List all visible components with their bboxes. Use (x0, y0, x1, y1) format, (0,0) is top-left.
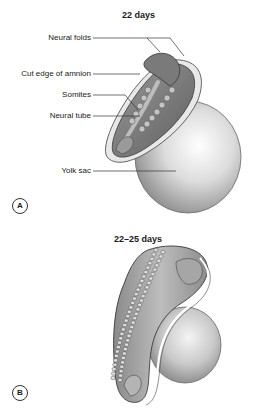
somite-bead (138, 284, 142, 287)
somite-bead (118, 378, 122, 381)
somite-bead (136, 308, 140, 311)
somite-bead (119, 374, 123, 377)
somite-bead (125, 343, 129, 346)
somite-bead (121, 361, 125, 364)
somite-bead (153, 268, 157, 271)
somite-bead (134, 293, 138, 296)
panel-b-title: 22–25 days (114, 234, 162, 244)
embryo-illustration (0, 0, 278, 409)
panel-b-marker: B (12, 385, 28, 401)
panel-a-title: 22 days (122, 10, 155, 20)
somite-bead (130, 325, 134, 328)
somite-bead (149, 277, 153, 280)
somite-bead (134, 312, 138, 315)
somite-bead (127, 310, 131, 313)
somite-bead (120, 332, 124, 335)
panel-b-figure (111, 246, 221, 405)
somite-bead (115, 350, 119, 353)
panel-a-marker: A (12, 198, 28, 214)
somite-bead (140, 279, 144, 282)
somite-bead (119, 370, 123, 373)
somite-bead (126, 315, 130, 318)
somite-bead (114, 359, 118, 362)
somite-bead (111, 376, 115, 379)
somite-bead (146, 266, 150, 269)
somite-bead (112, 368, 116, 371)
somite-bead (157, 259, 161, 262)
somite-bead (122, 352, 126, 355)
somite-bead (131, 301, 135, 304)
somite-bead (150, 257, 154, 260)
somite-bead (155, 264, 159, 267)
somite-bead (143, 290, 147, 293)
somite-bead (128, 330, 132, 333)
somite-bead (138, 303, 142, 306)
somite-bead (131, 321, 135, 324)
somite-bead (148, 262, 152, 265)
somite-bead (113, 363, 117, 366)
somite-bead (119, 337, 123, 340)
somite-bead (145, 286, 149, 289)
somite-bead (118, 341, 122, 344)
label-neural-folds: Neural folds (48, 33, 91, 42)
label-somites: Somites (62, 90, 91, 99)
somite-bead (126, 339, 130, 342)
somite-bead (152, 253, 156, 256)
somite-bead (151, 272, 155, 275)
somite-bead (147, 281, 151, 284)
somite-bead (161, 250, 165, 253)
panel-a-figure (105, 53, 241, 213)
label-yolk-sac: Yolk sac (62, 166, 92, 175)
somite-bead (123, 348, 127, 351)
label-cut-edge-of-amnion: Cut edge of amnion (21, 69, 91, 78)
somite-bead (127, 334, 131, 337)
somite-bead (121, 356, 125, 359)
somite-bead (136, 288, 140, 291)
somite-bead (132, 297, 136, 300)
somite-bead (144, 270, 148, 273)
somite-bead (139, 299, 143, 302)
somite-bead (114, 354, 118, 357)
somite-bead (120, 365, 124, 368)
somite-bead (141, 295, 145, 298)
label-neural-tube: Neural tube (50, 111, 91, 120)
somite-bead (133, 317, 137, 320)
somite-bead (129, 306, 133, 309)
somite-bead (123, 323, 127, 326)
somite-bead (124, 319, 128, 322)
somite-bead (116, 346, 120, 349)
somite-bead (154, 248, 158, 251)
somite-bead (159, 255, 163, 258)
somite-bead (121, 328, 125, 331)
somite-bead (112, 372, 116, 375)
somite-bead (142, 275, 146, 278)
